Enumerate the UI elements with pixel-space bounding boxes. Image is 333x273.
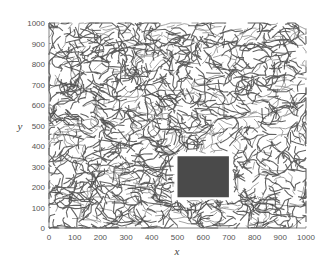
y-tick-label: 400 (32, 142, 46, 151)
y-tick-label: 500 (32, 122, 46, 131)
y-tick-label: 700 (32, 81, 46, 90)
y-tick-label: 600 (32, 101, 46, 110)
x-tick-label: 200 (94, 233, 108, 242)
y-tick-label: 200 (32, 183, 46, 192)
x-tick-label: 800 (248, 233, 262, 242)
x-axis-label: x (174, 245, 180, 257)
obstacle-rectangle (178, 156, 229, 197)
y-tick-label: 100 (32, 204, 46, 213)
x-tick-label: 700 (222, 233, 236, 242)
x-tick-label: 0 (47, 233, 52, 242)
y-axis-label: y (17, 120, 23, 132)
x-tick-label: 400 (145, 233, 159, 242)
y-tick-label: 800 (32, 60, 46, 69)
y-tick-label: 1000 (27, 19, 45, 28)
y-tick-labels: 01002003004005006007008009001000 (27, 19, 51, 233)
x-tick-label: 300 (119, 233, 133, 242)
x-tick-label: 900 (274, 233, 288, 242)
network-plot: 01002003004005006007008009001000 0100200… (0, 0, 333, 273)
y-tick-label: 300 (32, 163, 46, 172)
x-tick-label: 1000 (297, 233, 315, 242)
y-tick-label: 900 (32, 40, 46, 49)
x-tick-label: 100 (68, 233, 82, 242)
x-tick-label: 600 (197, 233, 211, 242)
y-tick-label: 0 (41, 224, 46, 233)
x-tick-label: 500 (171, 233, 185, 242)
